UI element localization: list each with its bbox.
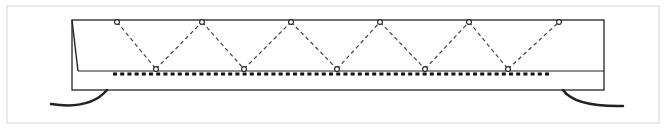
- node-marker-icon: [467, 20, 472, 25]
- node-marker-icon: [115, 20, 120, 25]
- dashed-diagonal: [337, 22, 380, 69]
- node-marker-icon: [506, 67, 511, 72]
- beam-body: [72, 20, 604, 90]
- dashed-diagonal: [117, 22, 156, 69]
- node-marker-icon: [557, 20, 562, 25]
- dashed-diagonal: [508, 22, 559, 69]
- right-support-curve: [563, 90, 623, 106]
- dashed-diagonal: [156, 22, 202, 69]
- dashed-diagonal: [244, 22, 291, 69]
- truss-diagram: [0, 0, 666, 130]
- dashed-diagonal: [380, 22, 425, 69]
- node-marker-icon: [154, 67, 159, 72]
- node-marker-icon: [378, 20, 383, 25]
- dashed-diagonals: [117, 22, 559, 69]
- dashed-diagonal: [291, 22, 337, 69]
- dashed-diagonal: [425, 22, 469, 69]
- node-marker-icon: [289, 20, 294, 25]
- node-marker-icon: [335, 67, 340, 72]
- dashed-diagonal: [202, 22, 244, 69]
- truss-nodes: [115, 20, 562, 72]
- truss-diagram-svg: [0, 0, 666, 130]
- node-marker-icon: [242, 67, 247, 72]
- left-support-curve: [51, 90, 107, 105]
- end-slant-line: [72, 20, 78, 71]
- dashed-diagonal: [469, 22, 508, 69]
- node-marker-icon: [423, 67, 428, 72]
- node-marker-icon: [200, 20, 205, 25]
